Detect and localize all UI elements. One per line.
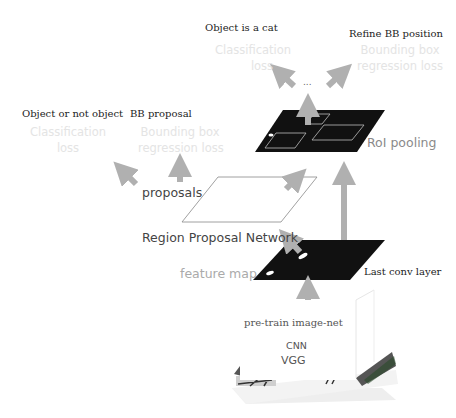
output-class-loss-line1: Classification (212, 42, 294, 58)
output-class-loss-line2: loss (212, 58, 294, 74)
cnn-label: CNN (286, 340, 307, 351)
pretrain-label: pre-train image-net (244, 317, 343, 328)
proposals-label: proposals (142, 185, 202, 200)
ellipsis: ... (303, 77, 312, 87)
output-bbox-label: Refine BB position (349, 28, 443, 39)
output-class-loss: Classification loss (212, 42, 294, 74)
rpn-class-loss-line1: Classification (28, 124, 108, 140)
roi-pooling-label: RoI pooling (367, 135, 436, 150)
vgg-label: VGG (281, 354, 306, 367)
last-conv-label: Last conv layer (364, 266, 441, 277)
output-bbox-loss: Bounding box regression loss (350, 42, 450, 74)
feature-map-label: feature map (180, 266, 257, 281)
proposals-plane (182, 177, 317, 222)
output-bbox-loss-line1: Bounding box (350, 42, 450, 58)
rpn-class-loss: Classification loss (28, 124, 108, 156)
rpn-bbox-loss: Bounding box regression loss (138, 124, 222, 156)
rpn-label: Region Proposal Network (142, 230, 298, 245)
rpn-bbox-loss-line2: regression loss (138, 140, 222, 156)
rpn-class-label: Object or not object (22, 108, 123, 119)
rpn-class-loss-line2: loss (28, 140, 108, 156)
roi-pooling-plane (255, 110, 385, 152)
output-class-label: Object is a cat (205, 22, 278, 33)
rpn-bbox-label: BB proposal (130, 108, 192, 119)
input-image-stack (232, 290, 398, 404)
output-bbox-loss-line2: regression loss (350, 58, 450, 74)
rpn-bbox-loss-line1: Bounding box (138, 124, 222, 140)
